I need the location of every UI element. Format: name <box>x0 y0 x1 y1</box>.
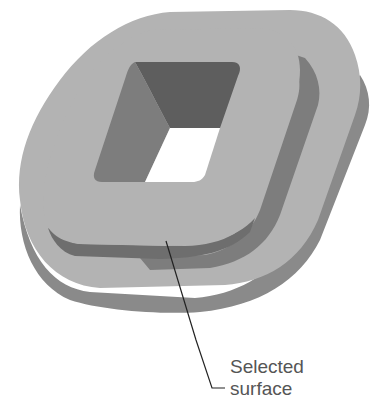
part-illustration <box>0 0 391 419</box>
callout-line-2: surface <box>230 378 304 400</box>
callout-label: Selected surface <box>230 356 304 400</box>
callout-line-1: Selected <box>230 356 304 378</box>
